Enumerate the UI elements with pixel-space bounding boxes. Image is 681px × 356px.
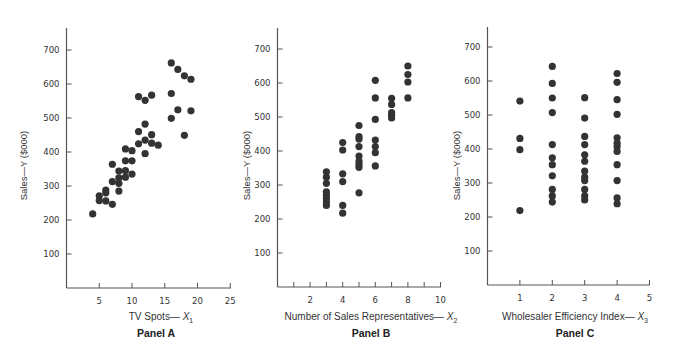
data-point	[516, 207, 523, 214]
panel-c-plot: 10020030040050060070012345	[0, 0, 681, 356]
data-point	[549, 63, 556, 70]
data-point	[614, 161, 621, 168]
y-tick-label: 300	[464, 178, 480, 188]
data-point	[581, 133, 588, 140]
data-point	[549, 161, 556, 168]
x-tick-label: 1	[517, 293, 522, 303]
data-point	[549, 192, 556, 199]
panel-c-title: Panel C	[535, 327, 615, 339]
data-point	[549, 198, 556, 205]
panel-c: 10020030040050060070012345 Sales—Y ($000…	[0, 0, 681, 356]
x-tick-label: 3	[582, 293, 587, 303]
panel-c-x-axis-sub: 3	[644, 317, 648, 324]
y-tick-label: 700	[464, 42, 480, 52]
data-point	[581, 177, 588, 184]
data-point	[614, 79, 621, 86]
data-point	[614, 96, 621, 103]
data-point	[516, 135, 523, 142]
data-point	[549, 172, 556, 179]
y-tick-label: 100	[464, 246, 480, 256]
data-point	[581, 158, 588, 165]
data-point	[516, 146, 523, 153]
data-point	[581, 141, 588, 148]
data-point	[614, 148, 621, 155]
x-tick-label: 4	[614, 293, 619, 303]
data-point	[581, 168, 588, 175]
panel-c-x-axis-label: Wholesaler Efficiency Index— X3	[495, 311, 655, 324]
data-point	[581, 186, 588, 193]
y-tick-label: 500	[464, 110, 480, 120]
data-point	[581, 114, 588, 121]
data-point	[549, 141, 556, 148]
data-point	[581, 151, 588, 158]
data-point	[549, 186, 556, 193]
y-tick-label: 200	[464, 212, 480, 222]
x-tick-label: 2	[550, 293, 555, 303]
data-point	[614, 177, 621, 184]
y-tick-label: 400	[464, 144, 480, 154]
panel-c-y-axis-label: Sales—Y ($000)	[451, 121, 462, 211]
data-point	[614, 70, 621, 77]
data-point	[549, 94, 556, 101]
data-point	[549, 109, 556, 116]
data-point	[549, 154, 556, 161]
data-point	[549, 80, 556, 87]
data-point	[614, 200, 621, 207]
y-tick-label: 600	[464, 76, 480, 86]
data-point	[581, 196, 588, 203]
data-point	[581, 94, 588, 101]
x-tick-label: 5	[647, 293, 652, 303]
data-point	[516, 97, 523, 104]
panel-c-x-axis-label-text: Wholesaler Efficiency Index—	[502, 311, 637, 322]
data-point	[614, 111, 621, 118]
